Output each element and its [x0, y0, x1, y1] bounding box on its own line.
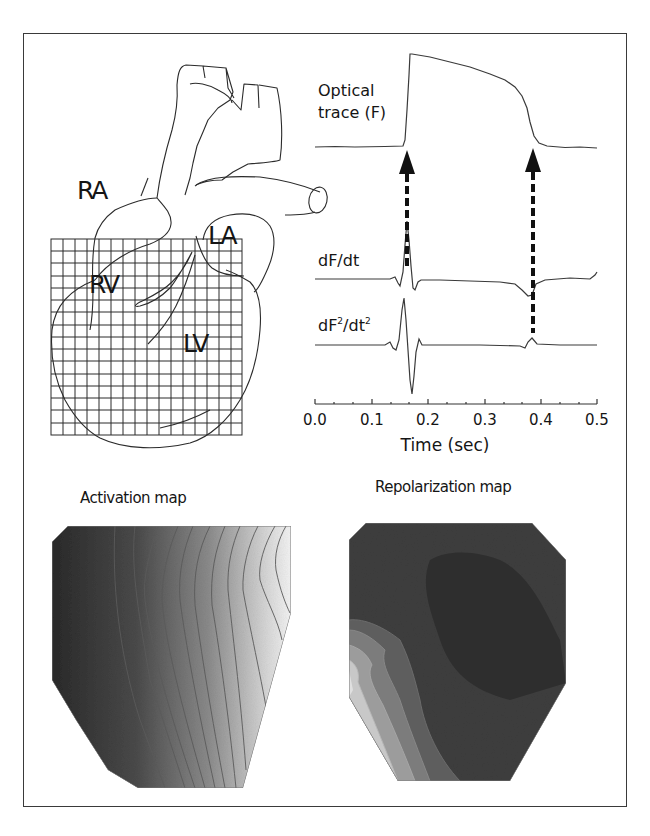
optical-trace-chart: Optical trace (F) dF/dt dF2/dt2	[303, 54, 609, 455]
x-tick-label-0: 0.0	[303, 411, 327, 429]
x-axis-title: Time (sec)	[400, 435, 490, 455]
dfdt-label: dF/dt	[318, 251, 359, 270]
ra-label: RA	[77, 176, 108, 205]
x-axis	[315, 399, 597, 404]
x-tick-label-5: 0.5	[585, 411, 609, 429]
heart-diagram	[52, 65, 330, 448]
activation-map	[52, 526, 292, 788]
optical-trace-line	[315, 54, 597, 148]
ventricle-outline	[52, 270, 261, 448]
activation-map-title: Activation map	[80, 489, 186, 507]
la-label: LA	[208, 221, 238, 250]
figure-canvas: RA LA RV LV Optical trace (F) dF/dt dF2/…	[0, 0, 650, 836]
x-tick-label-3: 0.3	[473, 411, 497, 429]
repolarization-time-arrow	[525, 148, 541, 333]
optical-trace-label-line2: trace (F)	[318, 103, 386, 122]
d2fdt2-label: dF2/dt2	[318, 316, 371, 335]
repolarization-map-title: Repolarization map	[375, 478, 511, 496]
x-tick-label-2: 0.2	[416, 411, 440, 429]
x-tick-label-4: 0.4	[529, 411, 553, 429]
optical-trace-label-line1: Optical	[318, 81, 375, 100]
x-tick-label-1: 0.1	[360, 411, 384, 429]
repolarization-map	[349, 523, 567, 782]
rv-label: RV	[89, 270, 120, 299]
great-vessels-outline	[157, 65, 234, 198]
activation-time-arrow	[399, 150, 415, 268]
d2fdt2-trace-line	[315, 298, 597, 394]
lv-label: LV	[183, 329, 209, 358]
